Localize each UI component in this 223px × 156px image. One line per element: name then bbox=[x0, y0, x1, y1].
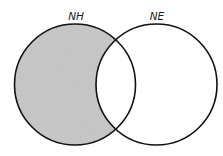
venn-diagram: NH NE bbox=[0, 0, 223, 156]
nh-label: NH bbox=[68, 10, 84, 22]
ne-label: NE bbox=[150, 10, 165, 22]
